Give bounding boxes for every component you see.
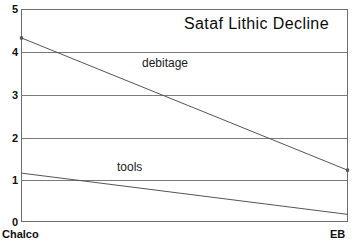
plot-area bbox=[21, 9, 348, 222]
y-axis-tick-0: 0 bbox=[2, 217, 18, 228]
gridline-y-2 bbox=[21, 138, 348, 139]
series-label-tools: tools bbox=[117, 161, 142, 174]
series-label-debitage: debitage bbox=[142, 57, 188, 70]
chart-figure: 5 4 3 2 1 0 Chalco EB Sataf Lithic Decli… bbox=[0, 0, 359, 243]
chart-title: Sataf Lithic Decline bbox=[184, 15, 344, 33]
x-axis-label-eb: EB bbox=[330, 229, 345, 240]
y-axis-tick-4: 4 bbox=[2, 47, 18, 58]
y-axis-tick-1: 1 bbox=[2, 175, 18, 186]
gridline-y-1 bbox=[21, 180, 348, 181]
y-axis-tick-2: 2 bbox=[2, 133, 18, 144]
y-axis-tick-5: 5 bbox=[2, 4, 18, 15]
gridline-y-4 bbox=[21, 52, 348, 53]
y-axis-tick-3: 3 bbox=[2, 90, 18, 101]
x-axis-label-chalco: Chalco bbox=[2, 229, 39, 240]
gridline-y-3 bbox=[21, 95, 348, 96]
